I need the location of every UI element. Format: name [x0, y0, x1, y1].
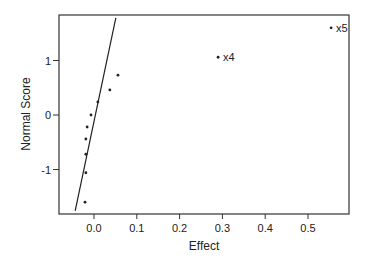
- x-tick-label: 0.2: [172, 222, 187, 234]
- x-tick-label: 0.4: [258, 222, 273, 234]
- point-label-x4: x4: [223, 51, 235, 63]
- y-axis-label: Normal Score: [19, 77, 33, 151]
- x-tick-label: 0.5: [300, 222, 315, 234]
- data-point: [84, 171, 87, 174]
- data-point: [90, 114, 93, 117]
- data-point: [84, 153, 87, 156]
- y-tick-label: 0: [45, 109, 51, 121]
- data-point: [108, 89, 111, 92]
- x-tick-label: 0.0: [86, 222, 101, 234]
- x-tick-label: 0.3: [215, 222, 230, 234]
- data-point: [217, 56, 220, 59]
- normal-probability-plot: 0.00.10.20.30.40.5-101 x4x5 Effect Norma…: [0, 0, 365, 269]
- x-axis-label: Effect: [189, 239, 220, 253]
- data-point: [84, 201, 87, 204]
- data-point: [330, 26, 333, 29]
- data-point: [96, 101, 99, 104]
- data-point: [117, 74, 120, 77]
- x-tick-label: 0.1: [129, 222, 144, 234]
- y-tick-label: -1: [41, 164, 51, 176]
- point-label-x5: x5: [336, 22, 348, 34]
- data-point: [84, 138, 87, 141]
- data-point: [86, 126, 89, 129]
- y-tick-label: 1: [45, 55, 51, 67]
